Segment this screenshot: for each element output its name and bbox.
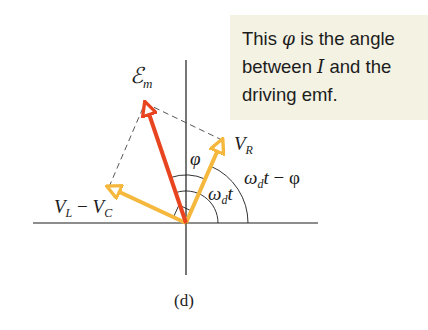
phasor-diagram: ℰm VR VL − VC φ ωdt ωdt − φ (d) (0, 0, 428, 330)
vr-label: VR (234, 133, 254, 157)
vl-minus-vc-label: VL − VC (54, 196, 113, 220)
figure-caption: (d) (174, 291, 194, 310)
dashed-line-vlvc-to-emf (109, 103, 145, 187)
omega-t-minus-phi-label: ωdt − φ (244, 167, 300, 191)
phi-label: φ (190, 148, 201, 169)
omega-t-label: ωdt (208, 183, 233, 207)
emf-label: ℰm (130, 63, 152, 91)
angle-arc-phi (170, 175, 205, 179)
